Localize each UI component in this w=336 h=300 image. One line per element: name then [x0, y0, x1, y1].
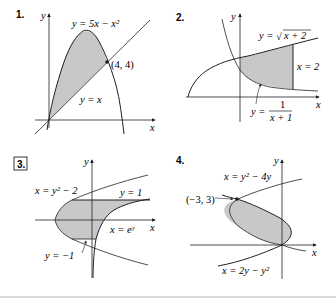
pointer-arrow — [256, 84, 261, 104]
point-label: (4, 4) — [111, 59, 134, 71]
point-neg3-3 — [235, 197, 239, 201]
y-axis-label: y — [230, 11, 236, 22]
panel-1 — [35, 14, 155, 134]
point-label: (−3, 3) — [186, 194, 215, 206]
pointer-arrow — [82, 241, 86, 253]
svg-text:1: 1 — [280, 99, 285, 110]
problem-number-4: 4. — [176, 155, 185, 166]
lower-curve-label: x = 2y − y² — [221, 265, 270, 276]
right-boundary-label: x = 2 — [296, 61, 320, 72]
parabola-label: x = y² − 2 — [34, 185, 78, 196]
upper-curve-label: y = √ x + 2 — [258, 30, 311, 42]
shaded-region-1 — [49, 31, 107, 120]
y-axis-label: y — [40, 10, 46, 21]
problem-number-3: 3. — [17, 159, 26, 170]
svg-text:√: √ — [276, 31, 282, 42]
panel-3 — [14, 157, 155, 278]
bottom-line-label: y = −1 — [44, 250, 74, 261]
x-axis-label: x — [149, 222, 155, 233]
svg-text:x + 2: x + 2 — [283, 30, 307, 41]
y-axis-label: y — [273, 155, 279, 166]
problem-number-1: 1. — [16, 9, 25, 20]
pointer-arrow — [215, 198, 233, 199]
svg-text:y =: y = — [250, 106, 265, 117]
x-axis-label: x — [315, 99, 321, 110]
svg-text:y =: y = — [258, 30, 273, 41]
problem-number-2: 2. — [176, 12, 185, 23]
svg-text:x + 1: x + 1 — [269, 112, 292, 123]
curve-label: y = 5x − x² — [71, 18, 120, 29]
point-4-4 — [105, 60, 109, 64]
x-axis-label: x — [311, 247, 317, 258]
line-label: y = x — [79, 94, 102, 105]
top-line-label: y = 1 — [119, 187, 142, 198]
x-axis-label: x — [149, 122, 155, 133]
y-axis-label: y — [83, 156, 89, 167]
upper-curve-label: x = y² − 4y — [223, 171, 271, 182]
figure-canvas: 1. y x y = 5x − x² (4, 4) y = x 2. y x y… — [0, 0, 336, 300]
exp-curve-label: x = eʸ — [109, 224, 136, 235]
